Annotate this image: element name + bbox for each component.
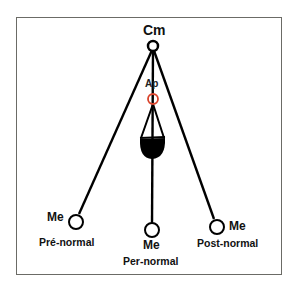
point-me-per-icon bbox=[145, 223, 159, 237]
label-me-post: Me bbox=[229, 219, 246, 233]
label-post-normal: Post-normal bbox=[197, 237, 258, 249]
label-per-normal: Per-normal bbox=[123, 255, 178, 267]
point-me-post-icon bbox=[210, 220, 224, 234]
label-pre-normal: Pré-normal bbox=[39, 236, 94, 248]
point-me-pre-icon bbox=[69, 215, 83, 229]
line-cm-me-per bbox=[152, 48, 153, 224]
label-me-per: Me bbox=[143, 238, 160, 252]
line-cm-me-pre bbox=[79, 48, 153, 214]
label-me-pre: Me bbox=[47, 210, 64, 224]
label-cm: Cm bbox=[143, 22, 166, 38]
label-ap: Ap bbox=[145, 78, 158, 89]
point-cm-icon bbox=[148, 41, 158, 51]
